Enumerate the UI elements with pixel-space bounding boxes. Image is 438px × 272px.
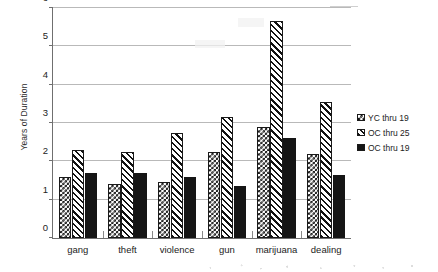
bar-violence-yc-thru-19 <box>158 182 171 238</box>
legend-swatch-diagonal-hatch-icon <box>357 129 365 137</box>
bar-marijuana-oc-thru-25 <box>270 21 283 238</box>
y-axis-tick-label: 0 <box>43 222 48 233</box>
x-axis-tick-label-dealing: dealing <box>311 244 342 255</box>
y-axis-tick-label: 6 <box>43 0 48 3</box>
bar-theft-oc-thru-25 <box>121 152 134 238</box>
x-axis-tick-label-gang: gang <box>67 244 88 255</box>
x-axis-tick-label-theft: theft <box>118 244 137 255</box>
y-axis-tick-label: 3 <box>43 107 48 118</box>
bar-group-gang: gang <box>53 8 103 238</box>
y-axis-tick-label: 2 <box>43 145 48 156</box>
x-axis-group-separator <box>103 231 104 238</box>
legend-swatch-solid-icon <box>357 144 365 152</box>
bar-marijuana-oc-thru-19 <box>283 138 296 238</box>
x-axis-tick-label-violence: violence <box>160 244 195 255</box>
bar-gun-yc-thru-19 <box>208 152 221 238</box>
bar-dealing-oc-thru-25 <box>320 102 333 238</box>
bar-chart-figure: Years of Duration 0123456 gangtheftviole… <box>0 0 438 272</box>
plot-area: 0123456 gangtheftviolencegunmarijuanadea… <box>52 8 351 239</box>
scan-artifact-noise <box>196 263 436 271</box>
bar-gun-oc-thru-25 <box>221 117 234 238</box>
bar-theft-oc-thru-19 <box>134 173 147 238</box>
bar-group-dealing: dealing <box>301 8 351 238</box>
x-axis-tick-label-marijuana: marijuana <box>256 244 298 255</box>
legend-label: OC thru 25 <box>368 128 410 138</box>
bar-gang-yc-thru-19 <box>59 177 72 238</box>
y-axis-tick-label: 1 <box>43 183 48 194</box>
x-axis-tick-label-gun: gun <box>219 244 235 255</box>
bar-gang-oc-thru-19 <box>85 173 98 238</box>
x-axis-group-separator <box>301 231 302 238</box>
legend-entry-oc-thru-25[interactable]: OC thru 25 <box>357 125 437 140</box>
bar-group-gun: gun <box>202 8 252 238</box>
legend-entry-yc-thru-19[interactable]: YC thru 19 <box>357 110 437 125</box>
bar-group-marijuana: marijuana <box>252 8 302 238</box>
bar-violence-oc-thru-19 <box>184 177 197 238</box>
bar-gun-oc-thru-19 <box>234 186 247 238</box>
y-axis-tick-label: 4 <box>43 68 48 79</box>
legend-entry-oc-thru-19[interactable]: OC thru 19 <box>357 140 437 155</box>
bar-group-violence: violence <box>152 8 202 238</box>
y-axis-title: Years of Duration <box>19 47 29 187</box>
y-axis-tick-label: 5 <box>43 30 48 41</box>
legend-label: OC thru 19 <box>368 143 410 153</box>
bar-groups-layer: gangtheftviolencegunmarijuanadealing <box>53 8 351 238</box>
bar-theft-yc-thru-19 <box>108 184 121 238</box>
legend-swatch-checkerboard-icon <box>357 114 365 122</box>
x-axis-group-separator <box>152 231 153 238</box>
bar-marijuana-yc-thru-19 <box>257 127 270 238</box>
bar-group-theft: theft <box>103 8 153 238</box>
legend-label: YC thru 19 <box>368 113 409 123</box>
x-axis-group-separator <box>252 231 253 238</box>
bar-dealing-yc-thru-19 <box>307 154 320 238</box>
bar-dealing-oc-thru-19 <box>333 175 346 238</box>
chart-legend: YC thru 19 OC thru 25 OC thru 19 <box>357 110 437 155</box>
x-axis-group-separator <box>202 231 203 238</box>
bar-gang-oc-thru-25 <box>72 150 85 238</box>
bar-violence-oc-thru-25 <box>171 133 184 238</box>
